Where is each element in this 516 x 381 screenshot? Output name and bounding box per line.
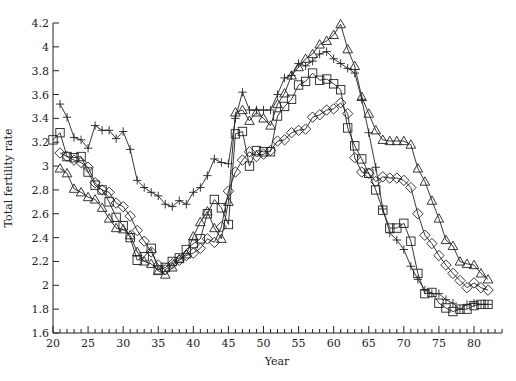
triangle-marker [238,105,248,113]
x-tick-label: 60 [327,337,341,350]
fertility-rate-chart: 1.61.822.22.42.62.833.23.43.63.844.22025… [0,0,516,381]
plus-marker [189,188,197,196]
y-tick-label: 2.8 [32,184,50,197]
y-tick-label: 3.8 [32,65,50,78]
x-tick-label: 75 [432,337,446,350]
y-tick-label: 3.6 [32,89,50,102]
y-tick-label: 2 [42,279,49,292]
x-tick-label: 50 [257,337,271,350]
y-tick-label: 2.6 [32,208,50,221]
plus-marker [400,245,408,253]
x-axis-title: Year [264,355,290,368]
y-axis-title: Total fertility rate [2,129,15,228]
plus-marker [217,158,225,166]
triangle-marker [315,40,325,48]
plus-marker [63,113,71,121]
plus-marker [203,171,211,179]
plus-marker [147,188,155,196]
triangle-marker [406,140,416,148]
x-tick-label: 80 [467,337,481,350]
x-tick-label: 70 [397,337,411,350]
x-tick-label: 35 [151,337,165,350]
y-tick-label: 3 [42,160,49,173]
plus-marker [351,69,359,77]
plus-marker [91,121,99,129]
y-tick-label: 3.4 [32,112,50,125]
x-tick-label: 45 [221,337,235,350]
y-tick-label: 2.4 [32,232,50,245]
x-tick-label: 65 [362,337,376,350]
plus-marker [182,200,190,208]
plus-marker [126,145,134,153]
x-tick-label: 55 [292,337,306,350]
plus-marker [210,155,218,163]
plus-marker [70,133,78,141]
x-tick-label: 20 [46,337,60,350]
y-tick-label: 4 [42,41,49,54]
plus-marker [336,59,344,67]
y-tick-label: 1.8 [32,303,50,316]
y-tick-label: 3.2 [32,136,50,149]
series-line-diamond [60,103,488,290]
plus-marker [196,183,204,191]
y-tick-label: 4.2 [32,17,50,30]
y-tick-label: 2.2 [32,255,50,268]
axes: 1.61.822.22.42.62.833.23.43.63.844.22025… [32,17,503,350]
x-tick-label: 30 [116,337,130,350]
x-tick-label: 40 [186,337,200,350]
x-tick-label: 25 [81,337,95,350]
plus-marker [238,88,246,96]
plus-marker [56,100,64,108]
plus-marker [273,90,281,98]
series-layer [49,19,493,315]
